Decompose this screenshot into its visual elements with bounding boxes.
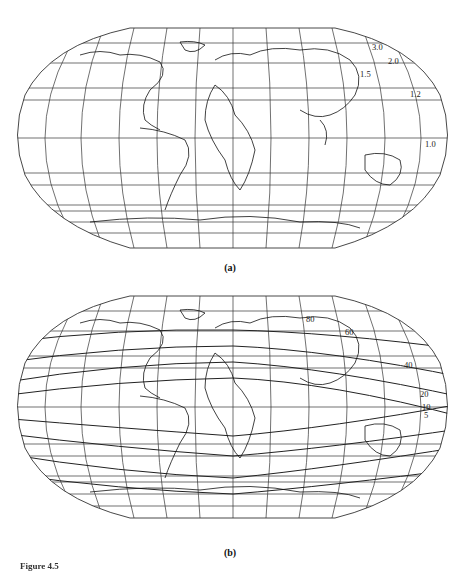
contour-labels-a: 3.0 2.0 1.5 1.2 1.0 [360,42,436,149]
svg-text:1.5: 1.5 [360,69,371,79]
svg-text:5: 5 [424,410,428,420]
svg-text:3.0: 3.0 [372,42,383,52]
svg-text:40: 40 [404,360,413,370]
graticule-b [0,296,466,518]
map-panel-a: 3.0 2.0 1.5 1.2 1.0 [0,0,466,260]
svg-text:1.0: 1.0 [425,139,436,149]
figure-caption: Figure 4.5 [20,561,59,571]
coastlines-b [80,309,401,498]
svg-text:80: 80 [306,314,315,324]
coastlines-a [80,41,401,228]
world-map-b: 80 60 40 20 10 5 [0,268,466,530]
panel-label-b: (b) [0,547,463,558]
world-map-a: 3.0 2.0 1.5 1.2 1.0 [0,0,466,260]
svg-text:1.2: 1.2 [410,89,421,99]
map-panel-b: 80 60 40 20 10 5 [0,268,466,530]
svg-text:20: 20 [420,389,429,399]
svg-text:60: 60 [345,327,354,337]
svg-text:2.0: 2.0 [388,56,399,66]
